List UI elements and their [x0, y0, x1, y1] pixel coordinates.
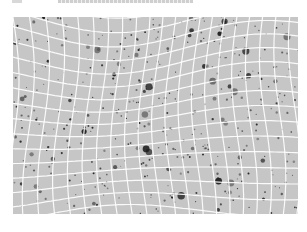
galaxy-dot [163, 199, 165, 201]
galaxy-dot [159, 24, 161, 26]
galaxy-dot [187, 171, 189, 173]
galaxy-dot [207, 148, 209, 150]
galaxy-dot [127, 143, 129, 145]
galaxy-dot [268, 86, 269, 87]
galaxy-dot [256, 138, 259, 141]
galaxy-dot [44, 132, 46, 134]
galaxy-dot [111, 93, 113, 95]
galaxy-dot [32, 20, 35, 23]
galaxy-dot [148, 111, 149, 112]
galaxy-dot [294, 86, 296, 88]
galaxy-dot [20, 97, 25, 102]
galaxy-dot [121, 115, 123, 117]
galaxy-dot [237, 178, 238, 179]
galaxy-dot [25, 166, 27, 168]
galaxy-dot [137, 49, 139, 51]
galaxy-dot [192, 114, 193, 115]
galaxy-dot [30, 165, 31, 166]
galaxy-dot [204, 147, 206, 149]
galaxy-dot [261, 158, 265, 162]
galaxy-dot [142, 162, 144, 164]
galaxy-dot [150, 197, 151, 198]
galaxy-dot [73, 205, 75, 207]
galaxy-dot [20, 114, 22, 116]
galaxy-dot [286, 161, 288, 163]
galaxy-dot [16, 25, 18, 27]
galaxy-dot [171, 196, 172, 197]
galaxy-dot [175, 72, 176, 73]
galaxy-dot [144, 31, 146, 33]
galaxy-dot [74, 175, 76, 177]
galaxy-dot [81, 181, 82, 182]
galaxy-dot [63, 128, 65, 130]
galaxy-dot [97, 48, 100, 51]
galaxy-dot [264, 191, 266, 193]
galaxy-dot [217, 177, 218, 178]
galaxy-dot [84, 212, 86, 214]
caption-marker [12, 0, 22, 3]
galaxy-dot [43, 84, 44, 85]
galaxy-dot [35, 40, 36, 41]
galaxy-dot [246, 73, 251, 78]
galaxy-dot [33, 169, 35, 171]
galaxy-dot [202, 146, 203, 147]
galaxy-dot [276, 27, 278, 29]
galaxy-dot [189, 156, 191, 158]
galaxy-dot [98, 38, 99, 39]
galaxy-dot [250, 109, 252, 111]
galaxy-dot [135, 89, 137, 91]
galaxy-dot [91, 161, 93, 163]
galaxy-dot [279, 187, 280, 188]
galaxy-dot [57, 79, 58, 80]
galaxy-dot [90, 67, 92, 69]
galaxy-dot [234, 53, 236, 55]
galaxy-dot [162, 103, 163, 104]
galaxy-dot [138, 102, 140, 104]
galaxy-dot [45, 66, 46, 67]
galaxy-dot [48, 166, 50, 168]
galaxy-dot [293, 160, 296, 163]
galaxy-dot [144, 125, 146, 127]
galaxy-dot [249, 207, 250, 208]
galaxy-dot [143, 90, 146, 93]
galaxy-dot [233, 20, 234, 21]
galaxy-dot [61, 44, 64, 47]
galaxy-dot [157, 211, 158, 212]
galaxy-dot [107, 187, 109, 189]
galaxy-dot [116, 154, 118, 156]
galaxy-dot [221, 88, 223, 90]
galaxy-dot [158, 31, 159, 32]
galaxy-dot [255, 26, 256, 27]
galaxy-dot [75, 194, 76, 195]
lensing-grid-illustration [13, 17, 298, 214]
galaxy-dot [103, 150, 105, 152]
galaxy-dot [151, 78, 153, 80]
galaxy-dot [39, 190, 42, 193]
galaxy-dot [157, 36, 159, 38]
galaxy-dot [158, 147, 160, 149]
galaxy-dot [228, 147, 229, 148]
galaxy-dot [286, 112, 288, 114]
galaxy-dot [284, 95, 286, 97]
galaxy-dot [200, 32, 202, 34]
galaxy-dot [158, 97, 160, 99]
galaxy-dot [142, 111, 148, 117]
galaxy-dot [201, 133, 202, 134]
galaxy-dot [129, 101, 131, 103]
galaxy-dot [66, 140, 68, 142]
galaxy-dot [130, 34, 132, 36]
galaxy-dot [134, 53, 138, 57]
galaxy-dot [239, 173, 241, 175]
galaxy-dot [202, 154, 204, 156]
galaxy-dot [166, 135, 167, 136]
galaxy-dot [292, 175, 293, 176]
galaxy-dot [42, 65, 43, 66]
galaxy-dot [166, 112, 168, 114]
galaxy-dot [104, 185, 105, 186]
galaxy-dot [15, 77, 17, 79]
galaxy-dot [195, 201, 196, 202]
galaxy-dot [237, 163, 238, 164]
galaxy-dot [152, 24, 154, 26]
galaxy-dot [133, 100, 135, 102]
galaxy-dot [255, 130, 257, 132]
